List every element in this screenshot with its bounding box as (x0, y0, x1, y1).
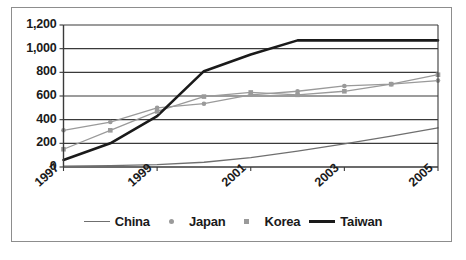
axis-ticks (60, 25, 439, 171)
y-axis-tick-label: 1,200 (11, 17, 57, 31)
legend-swatch-line-icon (84, 221, 110, 222)
series-lines (64, 40, 439, 166)
legend-item-japan[interactable]: Japan (159, 214, 226, 229)
marker-korea (342, 89, 347, 94)
y-axis-tick-label: 1,000 (11, 41, 57, 55)
marker-korea (389, 82, 394, 87)
legend-label: Korea (264, 214, 300, 229)
legend-item-korea[interactable]: Korea (234, 214, 300, 229)
legend-label: Japan (189, 214, 226, 229)
series-line-china (64, 128, 439, 166)
marker-japan (202, 101, 207, 106)
y-axis-tick-label: 600 (11, 88, 57, 102)
legend-swatch-thick-line-icon (309, 220, 335, 223)
y-axis-tick-label: 800 (11, 64, 57, 78)
legend-label: Taiwan (340, 214, 382, 229)
marker-korea (202, 94, 207, 99)
marker-japan (342, 84, 347, 89)
marker-korea (155, 109, 160, 114)
marker-korea (295, 93, 300, 98)
legend-item-china[interactable]: China (84, 214, 150, 229)
legend-item-taiwan[interactable]: Taiwan (309, 214, 382, 229)
chart-figure: 02004006008001,0001,200 1997199920012003… (0, 0, 466, 260)
legend-swatch-dot-icon (169, 219, 174, 224)
marker-japan (108, 120, 113, 125)
marker-korea (248, 90, 253, 95)
legend-swatch-square-icon (244, 219, 249, 224)
series-line-taiwan (64, 40, 439, 160)
y-axis-tick-label: 200 (11, 135, 57, 149)
y-axis-tick-label: 400 (11, 112, 57, 126)
legend-label: China (115, 214, 150, 229)
series-line-japan (64, 81, 439, 131)
chart-legend: ChinaJapanKoreaTaiwan (0, 214, 466, 229)
marker-korea (108, 128, 113, 133)
